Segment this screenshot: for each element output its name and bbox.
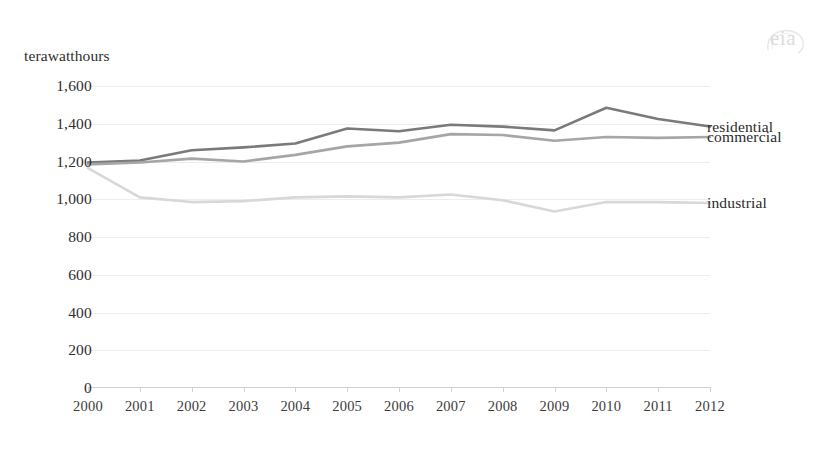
x-axis-tick-label: 2003 xyxy=(229,398,259,415)
y-axis-tick-label: 1,400 xyxy=(0,115,92,133)
y-axis-unit-label: terawatthours xyxy=(24,47,110,65)
x-axis-tick-label: 2008 xyxy=(488,398,518,415)
y-axis-tick-label: 1,200 xyxy=(0,153,92,171)
series-label-industrial: industrial xyxy=(707,194,767,212)
y-axis-tick-label: 800 xyxy=(0,228,92,246)
y-axis-tick-label: 200 xyxy=(0,341,92,359)
x-axis-tick-label: 2006 xyxy=(384,398,414,415)
x-axis-tick-label: 2000 xyxy=(73,398,103,415)
chart-container: eia terawatthours 02004006008001,0001,20… xyxy=(0,0,822,454)
series-lines xyxy=(88,86,710,388)
x-axis-tick-label: 2010 xyxy=(591,398,621,415)
x-axis-tick-label: 2009 xyxy=(540,398,570,415)
y-axis-tick-label: 400 xyxy=(0,304,92,322)
plot-area xyxy=(88,86,710,388)
series-line-industrial xyxy=(88,168,710,211)
y-axis-tick-label: 600 xyxy=(0,266,92,284)
series-line-residential xyxy=(88,108,710,163)
x-axis-tick-label: 2001 xyxy=(125,398,155,415)
x-axis-tick-label: 2005 xyxy=(332,398,362,415)
x-axis-tick xyxy=(710,387,711,392)
x-axis-tick-label: 2002 xyxy=(177,398,207,415)
series-line-commercial xyxy=(88,134,710,164)
y-axis-tick-label: 1,600 xyxy=(0,77,92,95)
x-axis-tick-label: 2012 xyxy=(695,398,725,415)
x-axis-tick-label: 2011 xyxy=(644,398,673,415)
y-axis-tick-label: 1,000 xyxy=(0,190,92,208)
x-axis-tick-label: 2004 xyxy=(280,398,310,415)
series-label-commercial: commercial xyxy=(707,128,782,146)
eia-logo: eia xyxy=(756,24,810,58)
eia-logo-text: eia xyxy=(756,26,810,51)
y-axis-tick-label: 0 xyxy=(0,379,92,397)
x-axis-tick-label: 2007 xyxy=(436,398,466,415)
